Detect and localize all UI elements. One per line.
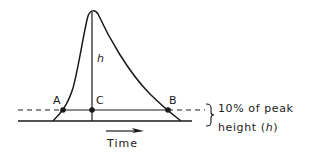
point-a-marker (60, 107, 66, 113)
brace-icon (206, 104, 214, 126)
annotation-line2-suffix: ) (273, 121, 278, 134)
point-c-label: C (96, 95, 104, 106)
point-a-label: A (53, 95, 61, 106)
peak-diagram-graphic (0, 0, 329, 155)
annotation-line1: 10% of peak (218, 103, 294, 114)
point-b-label: B (169, 95, 177, 106)
point-c-marker (89, 107, 95, 113)
annotation-line2: height (h) (218, 122, 278, 133)
peak-curve (53, 11, 181, 121)
annotation-line2-prefix: height ( (218, 121, 266, 134)
time-axis-label: Time (107, 138, 138, 149)
height-label: h (97, 53, 104, 64)
peak-diagram: A C B h Time 10% of peak height (h) (0, 0, 329, 155)
point-b-marker (165, 107, 171, 113)
